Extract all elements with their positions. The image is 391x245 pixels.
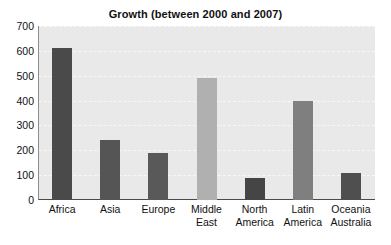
y-tick-label: 500 <box>0 71 34 81</box>
bar-series <box>38 26 375 200</box>
x-axis: AfricaAsiaEuropeMiddle EastNorth America… <box>38 203 375 243</box>
y-tick-label: 0 <box>0 195 34 205</box>
bar <box>197 78 217 200</box>
bar <box>148 153 168 200</box>
x-tick-label: Europe <box>134 203 182 216</box>
growth-bar-chart: Growth (between 2000 and 2007) 700600500… <box>0 0 391 245</box>
x-tick-label: Oceania Australia <box>327 203 375 228</box>
chart-title: Growth (between 2000 and 2007) <box>0 8 391 20</box>
x-tick-label: North America <box>231 203 279 228</box>
bar <box>341 173 361 200</box>
bar <box>245 178 265 200</box>
x-tick-label: Africa <box>38 203 86 216</box>
x-tick-label: Latin America <box>279 203 327 228</box>
x-tick-label: Asia <box>86 203 134 216</box>
x-tick-label: Middle East <box>182 203 230 228</box>
bar <box>293 101 313 200</box>
y-tick-label: 300 <box>0 120 34 130</box>
y-tick-label: 700 <box>0 21 34 31</box>
y-tick-label: 400 <box>0 96 34 106</box>
y-axis: 7006005004003002001000 <box>0 26 34 200</box>
y-tick-label: 200 <box>0 145 34 155</box>
bar <box>52 48 72 200</box>
y-tick-label: 600 <box>0 46 34 56</box>
bar <box>100 140 120 200</box>
y-tick-label: 100 <box>0 170 34 180</box>
